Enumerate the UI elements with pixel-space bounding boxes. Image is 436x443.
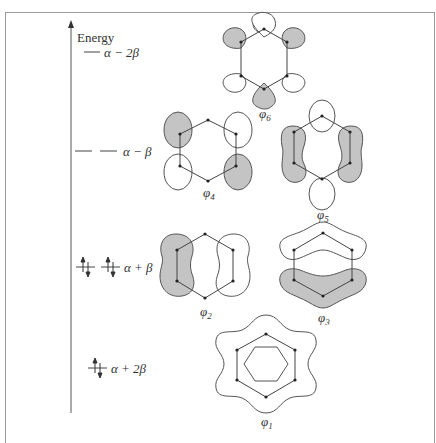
orbital-phi2: φ2 bbox=[160, 232, 250, 321]
orbital-phi3: φ3 bbox=[280, 222, 367, 327]
orbital-phi6: φ6 bbox=[223, 12, 305, 123]
orbital-phi5: φ5 bbox=[281, 100, 362, 224]
orbital-label: φ4 bbox=[203, 185, 215, 202]
energy-level-alpha-minus-beta: α − β bbox=[75, 144, 152, 159]
level-label: α − β bbox=[123, 144, 152, 159]
orbital-label: φ2 bbox=[200, 304, 212, 321]
axis-label: Energy bbox=[77, 30, 115, 45]
orbital-phi1: φ1 bbox=[216, 315, 317, 431]
orbital-label: φ3 bbox=[318, 310, 330, 327]
energy-level-alpha-plus-beta: α + β bbox=[76, 257, 153, 277]
orbital-phi4: φ4 bbox=[164, 112, 252, 202]
energy-level-alpha-minus-2beta: α − 2β bbox=[84, 45, 140, 60]
level-label: α + β bbox=[124, 260, 153, 275]
axis-arrow-icon bbox=[68, 20, 74, 28]
energy-axis: Energy bbox=[68, 20, 115, 413]
energy-level-alpha-plus-2beta: α + 2β bbox=[88, 358, 147, 378]
orbital-label: φ1 bbox=[261, 414, 273, 431]
orbital-label: φ5 bbox=[317, 207, 329, 224]
level-label: α + 2β bbox=[111, 361, 147, 376]
level-label: α − 2β bbox=[104, 45, 140, 60]
